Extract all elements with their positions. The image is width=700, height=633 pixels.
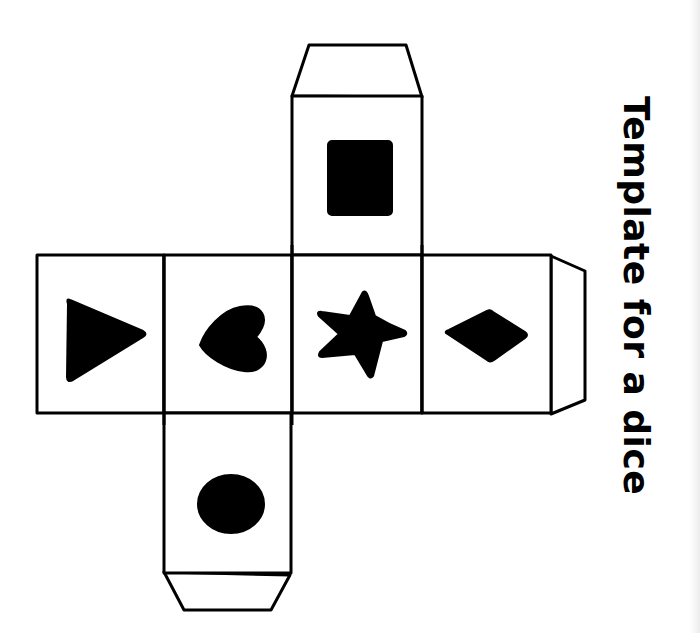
top-glue-tab xyxy=(292,45,422,97)
right-glue-tab xyxy=(551,256,585,414)
page-title: Template for a dice xyxy=(612,96,660,504)
square-icon xyxy=(328,141,392,215)
circle-icon xyxy=(198,475,264,533)
dice-net-diagram xyxy=(0,0,700,633)
bottom-glue-tab xyxy=(164,572,290,610)
